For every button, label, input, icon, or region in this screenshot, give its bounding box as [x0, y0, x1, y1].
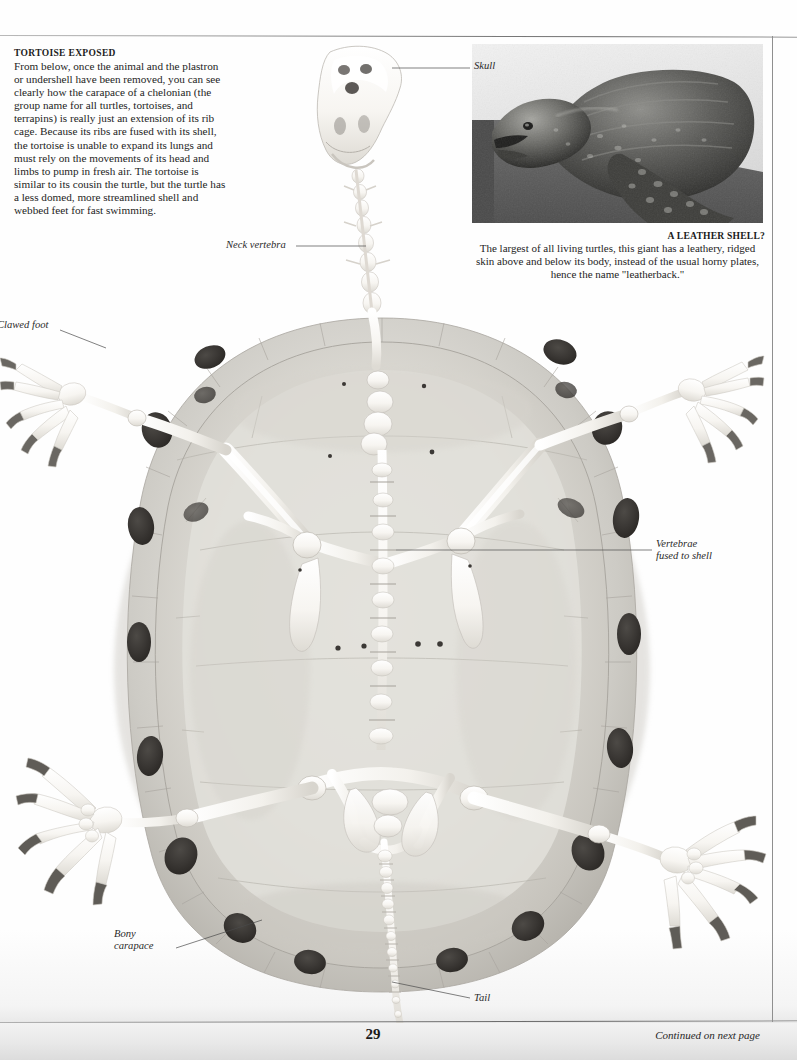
label-bony-line2: carapace — [114, 940, 153, 951]
leatherback-caption-heading: A LEATHER SHELL? — [460, 230, 765, 242]
intro-heading: TORTOISE EXPOSED — [14, 47, 226, 59]
hind-left-clawed-foot — [16, 758, 124, 905]
front-right-clawed-foot — [676, 356, 764, 463]
book-page: TORTOISE EXPOSED From below, once the an… — [0, 0, 797, 1060]
label-bony-carapace: Bony carapace — [114, 928, 194, 953]
hind-right-clawed-foot — [658, 816, 766, 949]
leader-clawed-foot — [60, 330, 106, 348]
label-neck-vertebra: Neck vertebra — [226, 239, 286, 251]
intro-text-block: TORTOISE EXPOSED From below, once the an… — [14, 47, 226, 217]
label-clawed-foot: Clawed foot — [0, 319, 49, 331]
label-tail: Tail — [474, 992, 490, 1004]
continued-note: Continued on next page — [560, 1029, 760, 1041]
leatherback-photo — [472, 44, 763, 223]
label-bony-line1: Bony — [114, 928, 136, 939]
front-left-clawed-foot — [0, 358, 88, 467]
neck-vertebrae — [344, 169, 390, 314]
label-vertebrae-line1: Vertebrae — [656, 538, 697, 549]
intro-body: From below, once the animal and the plas… — [14, 60, 226, 217]
label-skull: Skull — [474, 60, 495, 72]
leatherback-caption-body: The largest of all living turtles, this … — [460, 242, 765, 281]
label-vertebrae-fused-to-shell: Vertebrae fused to shell — [656, 538, 766, 563]
leatherback-caption: A LEATHER SHELL? The largest of all livi… — [460, 230, 765, 281]
label-vertebrae-line2: fused to shell — [656, 550, 712, 561]
skull — [317, 46, 401, 167]
page-number: 29 — [358, 1026, 388, 1043]
